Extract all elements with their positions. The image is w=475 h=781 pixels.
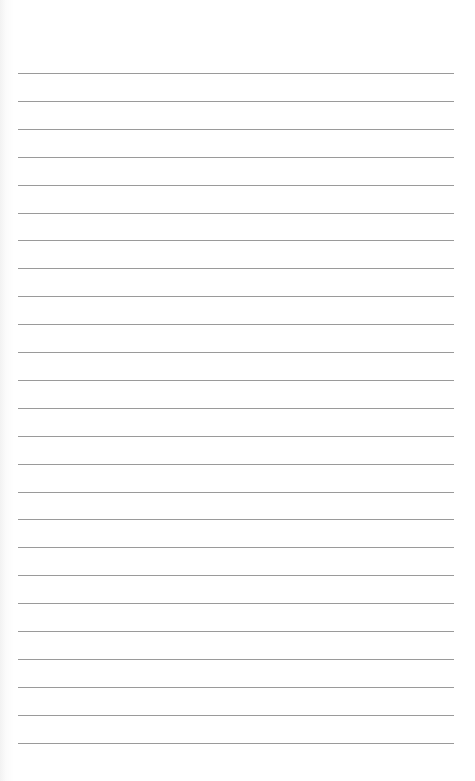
ruled-line [18, 631, 454, 632]
ruled-line [18, 519, 454, 520]
ruled-line [18, 129, 454, 130]
ruled-line [18, 715, 454, 716]
ruled-line [18, 352, 454, 353]
ruled-line [18, 101, 454, 102]
ruled-line [18, 73, 454, 74]
ruled-line [18, 213, 454, 214]
ruled-line [18, 268, 454, 269]
ruled-line [18, 436, 454, 437]
ruled-line [18, 464, 454, 465]
ruled-line [18, 659, 454, 660]
ruled-line [18, 324, 454, 325]
ruled-line [18, 603, 454, 604]
ruled-line [18, 157, 454, 158]
ruled-line [18, 380, 454, 381]
ruled-line [18, 185, 454, 186]
ruled-line [18, 296, 454, 297]
ruled-line [18, 743, 454, 744]
ruled-line [18, 408, 454, 409]
lined-paper-sheet [0, 0, 475, 781]
ruled-line [18, 240, 454, 241]
ruled-line [18, 547, 454, 548]
ruled-line [18, 687, 454, 688]
ruled-line [18, 575, 454, 576]
ruled-line [18, 492, 454, 493]
